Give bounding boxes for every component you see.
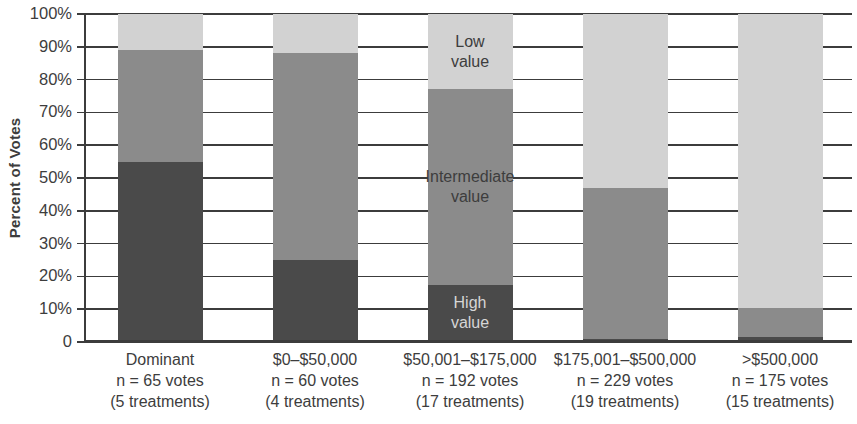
y-tick-label: 90% [39, 36, 72, 55]
series-label-line: Low [385, 32, 555, 52]
x-axis-label-line: $50,001–$175,000 [380, 349, 560, 370]
y-tick-label: 10% [39, 299, 72, 318]
x-axis-label-line: n = 65 votes [70, 370, 250, 391]
stacked-bar [583, 14, 668, 342]
stacked-bar [273, 14, 358, 342]
stacked-bar-chart: Percent of Votes 100%90%80%70%60%50%40%3… [0, 0, 857, 424]
x-axis-label: $0–$50,000n = 60 votes(4 treatments) [225, 349, 405, 412]
segment-high-value: Highvalue [428, 285, 513, 342]
y-tick-label: 30% [39, 233, 72, 252]
x-axis-label-line: n = 192 votes [380, 370, 560, 391]
segment-low-value [118, 14, 203, 50]
series-label-high-value: Highvalue [385, 293, 555, 333]
y-axis-tick-labels: 100%90%80%70%60%50%40%30%20%10%0 [0, 14, 72, 342]
y-tick-label: 40% [39, 200, 72, 219]
x-axis-label-line: n = 60 votes [225, 370, 405, 391]
y-axis-line [84, 13, 86, 343]
segment-intermediate-value [738, 308, 823, 338]
segment-high-value [273, 260, 358, 342]
stacked-bar: HighvalueIntermediatevalueLowvalue [428, 14, 513, 342]
y-tick-label: 0 [63, 332, 72, 351]
x-axis-label-line: (5 treatments) [70, 391, 250, 412]
segment-low-value [738, 14, 823, 308]
segment-high-value [118, 162, 203, 342]
series-label-line: value [385, 52, 555, 72]
segment-low-value [273, 14, 358, 53]
x-axis-label-line: (15 treatments) [690, 391, 857, 412]
series-label-intermediate-value: Intermediatevalue [385, 167, 555, 207]
x-axis-label: Dominantn = 65 votes(5 treatments) [70, 349, 250, 412]
series-label-line: High [385, 293, 555, 313]
x-axis-label-line: >$500,000 [690, 349, 857, 370]
x-axis-label-line: (4 treatments) [225, 391, 405, 412]
x-axis-label-line: Dominant [70, 349, 250, 370]
segment-intermediate-value [583, 188, 668, 339]
series-label-low-value: Lowvalue [385, 32, 555, 72]
x-axis-labels: Dominantn = 65 votes(5 treatments)$0–$50… [85, 349, 852, 419]
x-axis-label: >$500,000n = 175 votes(15 treatments) [690, 349, 857, 412]
series-label-line: Intermediate [385, 167, 555, 187]
stacked-bar [118, 14, 203, 342]
segment-intermediate-value [273, 53, 358, 260]
x-axis-line [84, 340, 852, 343]
plot-area: HighvalueIntermediatevalueLowvalue [85, 14, 852, 342]
series-label-line: value [385, 313, 555, 333]
x-axis-label-line: $0–$50,000 [225, 349, 405, 370]
segment-intermediate-value: Intermediatevalue [428, 89, 513, 284]
x-axis-label: $175,001–$500,000n = 229 votes(19 treatm… [535, 349, 715, 412]
segment-low-value: Lowvalue [428, 14, 513, 89]
y-tick-label: 80% [39, 69, 72, 88]
y-tick-label: 50% [39, 168, 72, 187]
x-axis-label-line: n = 229 votes [535, 370, 715, 391]
x-axis-label-line: n = 175 votes [690, 370, 857, 391]
x-axis-label-line: (17 treatments) [380, 391, 560, 412]
y-tick-label: 20% [39, 266, 72, 285]
segment-low-value [583, 14, 668, 188]
segment-intermediate-value [118, 50, 203, 162]
y-tick-label: 100% [30, 4, 72, 23]
y-tick-label: 70% [39, 102, 72, 121]
y-tick-label: 60% [39, 135, 72, 154]
x-axis-label-line: (19 treatments) [535, 391, 715, 412]
stacked-bar [738, 14, 823, 342]
x-axis-label-line: $175,001–$500,000 [535, 349, 715, 370]
series-label-line: value [385, 187, 555, 207]
x-axis-label: $50,001–$175,000n = 192 votes(17 treatme… [380, 349, 560, 412]
